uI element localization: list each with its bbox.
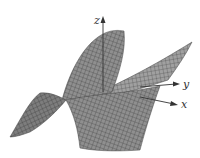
y-axis-label: y xyxy=(182,78,190,91)
surface-plot: z y x xyxy=(0,0,200,158)
y-axis-arrow-icon xyxy=(173,82,180,87)
x-axis-arrow-icon xyxy=(170,101,178,106)
z-axis-label: z xyxy=(93,14,100,27)
z-axis-arrow-icon xyxy=(101,16,106,23)
x-axis-label: x xyxy=(181,98,188,111)
surface-left-wing xyxy=(10,93,66,137)
